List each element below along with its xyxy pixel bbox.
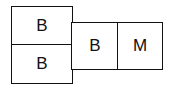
cell-right: M (117, 22, 163, 70)
cell-label: B (36, 54, 47, 74)
cell-middle: B (71, 22, 119, 70)
cell-bottom-left: B (11, 44, 73, 84)
cell-top-left: B (11, 6, 73, 46)
cell-label: M (133, 36, 147, 56)
cell-label: B (89, 36, 100, 56)
cell-label: B (36, 16, 47, 36)
